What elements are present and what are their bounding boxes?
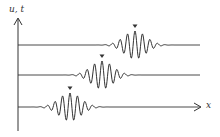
trace-bottom (18, 93, 200, 120)
trace-top (18, 31, 200, 58)
peak-marker-icon (133, 25, 138, 29)
y-axis-label: u, t (9, 5, 24, 14)
x-axis-label: x (206, 101, 211, 110)
wave-packet-diagram (0, 0, 220, 137)
trace-middle (18, 61, 200, 88)
peak-marker-icon (68, 87, 73, 91)
peak-marker-icon (100, 55, 105, 59)
